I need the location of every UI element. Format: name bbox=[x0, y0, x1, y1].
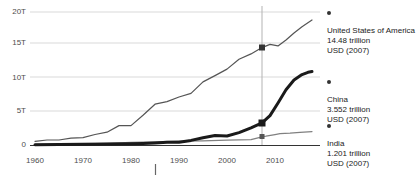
legend-item-text: United States of America 14.48 trillion … bbox=[327, 26, 416, 56]
legend-series-value: 1.201 trillion bbox=[327, 149, 416, 159]
series-line-china[interactable] bbox=[35, 72, 312, 145]
legend-series-name: India bbox=[327, 139, 416, 149]
marker-china-2007[interactable] bbox=[259, 120, 266, 127]
legend-item-text: India 1.201 trillion USD (2007) bbox=[327, 139, 416, 169]
plot-svg bbox=[0, 0, 320, 178]
legend-bullet-icon bbox=[327, 80, 331, 84]
legend-item-united-states[interactable]: United States of America 14.48 trillion … bbox=[327, 8, 416, 56]
legend-series-value: 3.552 trillion bbox=[327, 105, 416, 115]
legend-series-value: 14.48 trillion bbox=[327, 36, 416, 46]
marker-india-2007[interactable] bbox=[260, 134, 265, 139]
legend-series-unit: USD (2007) bbox=[327, 159, 416, 169]
plot-area[interactable]: 20T 15T 10T 5T 0 1960 1970 1980 1990 200… bbox=[0, 0, 320, 178]
legend-bullet-icon bbox=[327, 11, 331, 15]
legend-series-name: United States of America bbox=[327, 26, 416, 36]
gdp-line-chart: 20T 15T 10T 5T 0 1960 1970 1980 1990 200… bbox=[0, 0, 416, 178]
legend-series-name: China bbox=[327, 95, 416, 105]
legend-item-india[interactable]: India 1.201 trillion USD (2007) bbox=[327, 121, 416, 169]
legend-item-china[interactable]: China 3.552 trillion USD (2007) bbox=[327, 77, 416, 125]
series-line-usa[interactable] bbox=[35, 20, 312, 141]
legend-bullet-icon bbox=[327, 124, 331, 128]
legend: United States of America 14.48 trillion … bbox=[327, 0, 416, 178]
marker-usa-2007[interactable] bbox=[259, 45, 265, 51]
gridlines bbox=[30, 12, 320, 111]
legend-series-unit: USD (2007) bbox=[327, 46, 416, 56]
